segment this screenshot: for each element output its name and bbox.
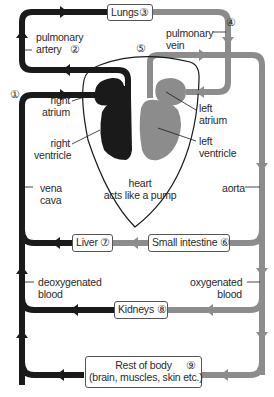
arrow-left-icon bbox=[70, 304, 78, 316]
oxygenated-blood-label: oxygenated blood bbox=[190, 276, 242, 300]
arrow-left-icon bbox=[62, 64, 70, 76]
arrow-left-icon bbox=[196, 86, 204, 98]
right-atrium-label: right atrium bbox=[40, 94, 70, 118]
arrow-left-icon bbox=[52, 237, 60, 249]
arrow-up-icon bbox=[16, 330, 28, 338]
body-artery-vessel bbox=[202, 362, 262, 375]
arrow-right-icon bbox=[60, 6, 68, 18]
liver-box: Liver ⑦ bbox=[72, 234, 113, 252]
pulmonary-artery-number: ② bbox=[70, 43, 80, 55]
body-vein-vessel bbox=[22, 362, 84, 375]
kidneys-number: ⑧ bbox=[157, 303, 167, 315]
rest-of-body-box: Rest of body ⑨ (brain, muscles, skin etc… bbox=[85, 356, 202, 388]
vena-cava-label: vena cava bbox=[40, 182, 62, 206]
arrow-down-icon bbox=[256, 163, 268, 171]
liver-label: Liver bbox=[76, 236, 98, 248]
kidneys-label: Kidneys bbox=[118, 303, 154, 315]
small-intestine-number: ⑥ bbox=[220, 236, 230, 248]
pulmonary-artery-label: pulmonary artery ② bbox=[36, 31, 83, 55]
arrow-up-icon bbox=[16, 30, 28, 38]
lungs-box: Lungs③ bbox=[107, 4, 153, 21]
small-intestine-label: Small intestine bbox=[152, 236, 217, 248]
pulmonary-vein-label: pulmonary vein bbox=[166, 27, 213, 51]
lungs-number: ③ bbox=[139, 6, 149, 18]
arrow-left-icon bbox=[220, 369, 228, 381]
arrow-left-icon bbox=[205, 304, 213, 316]
heart-caption: heart acts like a pump bbox=[100, 177, 180, 201]
right-ventricle-label: right ventricle bbox=[34, 137, 70, 161]
pulmonary-vein-number: ④ bbox=[226, 16, 236, 28]
rest-of-body-number: ⑨ bbox=[186, 359, 196, 371]
vena-cava-number: ① bbox=[10, 88, 20, 100]
kidneys-box: Kidneys ⑧ bbox=[114, 301, 168, 319]
arrow-left-icon bbox=[130, 237, 138, 249]
arrow-left-icon bbox=[56, 369, 64, 381]
rest-of-body-label: Rest of body bbox=[115, 359, 172, 371]
arrow-down-icon bbox=[256, 332, 268, 340]
aorta-number: ⑤ bbox=[136, 42, 146, 54]
arrow-down-icon bbox=[256, 268, 268, 276]
lungs-label: Lungs bbox=[111, 6, 139, 18]
arrow-up-icon bbox=[16, 266, 28, 274]
arrow-down-icon bbox=[222, 37, 234, 45]
intestine-branch-oxygenated bbox=[228, 230, 262, 243]
small-intestine-box: Small intestine ⑥ bbox=[148, 234, 230, 252]
deoxygenated-blood-label: deoxygenated blood bbox=[38, 276, 102, 300]
hepatic-vein-vessel bbox=[22, 230, 72, 243]
right-ventricle-shape bbox=[100, 98, 132, 160]
left-ventricle-label: left ventricle bbox=[199, 135, 236, 159]
left-ventricle-shape bbox=[140, 100, 181, 161]
liver-number: ⑦ bbox=[100, 236, 110, 248]
left-atrium-label: left atrium bbox=[199, 102, 227, 126]
rest-of-body-detail: (brain, muscles, skin etc.) bbox=[89, 371, 198, 383]
aorta-label: aorta bbox=[222, 182, 245, 194]
